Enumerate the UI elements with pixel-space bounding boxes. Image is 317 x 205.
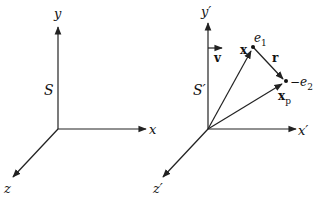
charge-e2-label: −e2 xyxy=(290,75,313,92)
y-prime-axis-label: y′ xyxy=(200,4,211,19)
frame-s: y x z S xyxy=(3,6,157,196)
position-x-label: x xyxy=(240,43,248,57)
frame-s-prime: y′ x′ z′ S′ v x e1 r −e2 xp xyxy=(152,4,313,196)
position-vector-xp xyxy=(208,84,282,129)
frame-s-label: S xyxy=(44,82,54,98)
x-axis-label: x xyxy=(149,122,157,137)
z-prime-axis-label: z′ xyxy=(152,181,163,196)
frame-s-prime-label: S′ xyxy=(193,82,207,98)
charge-e1-point xyxy=(251,45,255,49)
charge-e2-point xyxy=(284,79,288,83)
separation-vector-r xyxy=(253,47,283,79)
x-prime-axis-label: x′ xyxy=(298,123,308,138)
charge-e1-label: e1 xyxy=(254,31,267,48)
particle-position-xp-label: xp xyxy=(278,89,291,106)
separation-r-label: r xyxy=(272,51,279,65)
diagram-canvas: y x z S y′ x′ z′ S′ v x e1 r −e2 xp xyxy=(0,0,317,205)
z-axis-label: z xyxy=(3,181,11,196)
z-axis xyxy=(13,129,58,177)
velocity-label: v xyxy=(213,51,222,65)
y-axis-label: y xyxy=(53,6,62,21)
z-prime-axis xyxy=(163,129,208,177)
